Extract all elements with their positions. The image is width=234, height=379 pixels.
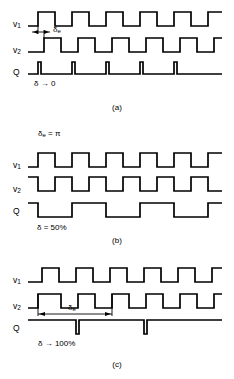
waveform-q bbox=[28, 203, 222, 217]
signal-label-v1: v1 bbox=[13, 20, 21, 29]
signal-label-v2: v2 bbox=[13, 185, 21, 194]
waveform-v2 bbox=[28, 177, 222, 191]
panel-caption-c: (c) bbox=[0, 361, 234, 369]
waveform-q bbox=[28, 320, 222, 334]
signal-label-q: Q bbox=[13, 207, 20, 216]
delta-e-label: δe bbox=[53, 26, 61, 34]
delta-value-label: δ → 100% bbox=[38, 340, 75, 348]
panel-b: δe = π v1 v2 Q δ = 50% (b) bbox=[0, 125, 234, 248]
panel-c: v1 v2 Q δe δ → 100% (c) bbox=[0, 248, 234, 379]
delta-e-pi-label: δe = π bbox=[38, 130, 60, 138]
signal-label-v2: v2 bbox=[13, 46, 21, 55]
waveform-v2 bbox=[28, 38, 222, 52]
delta-e-annotation bbox=[32, 26, 50, 38]
delta-e-label: δe bbox=[68, 304, 76, 312]
delta-value-label: δ → 0 bbox=[34, 80, 55, 88]
panel-a: v1 v2 Q δe δ → 0 (a) bbox=[0, 0, 234, 125]
panel-caption-b: (b) bbox=[0, 237, 234, 245]
signal-label-v1: v1 bbox=[13, 276, 21, 285]
panel-caption-a: (a) bbox=[0, 104, 234, 112]
signal-label-v2: v2 bbox=[13, 302, 21, 311]
panel-b-waveforms bbox=[0, 125, 234, 248]
waveform-v1 bbox=[28, 12, 222, 26]
timing-diagram-figure: v1 v2 Q δe δ → 0 (a) δe = π v1 bbox=[0, 0, 234, 379]
delta-value-label: δ = 50% bbox=[37, 224, 67, 232]
waveform-v1 bbox=[28, 153, 222, 167]
waveform-v2 bbox=[28, 294, 222, 308]
waveform-v1 bbox=[28, 268, 222, 282]
signal-label-v1: v1 bbox=[13, 161, 21, 170]
waveform-q bbox=[28, 62, 222, 74]
signal-label-q: Q bbox=[13, 68, 20, 77]
signal-label-q: Q bbox=[13, 324, 20, 333]
